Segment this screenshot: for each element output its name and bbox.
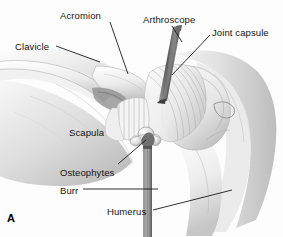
label-clavicle: Clavicle	[15, 42, 49, 52]
label-joint-capsule: Joint capsule	[212, 28, 269, 38]
label-acronion: Acromion	[60, 11, 101, 21]
label-burr: Burr	[60, 186, 78, 196]
label-humerus: Humerus	[107, 207, 146, 217]
panel-letter: A	[7, 213, 15, 224]
label-osteophytes: Osteophytes	[60, 168, 114, 178]
label-scapula: Scapula	[69, 128, 104, 138]
shoulder-arthroscopy-figure: Acromion Arthroscope Joint capsule Clavi…	[0, 0, 283, 237]
label-arthroscope: Arthroscope	[143, 15, 195, 25]
